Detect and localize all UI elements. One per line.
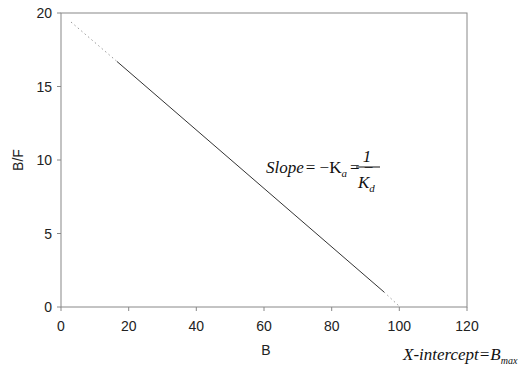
x-tick-0: 0 <box>57 318 65 334</box>
slope-numerator: 1 <box>363 147 372 166</box>
dotted-extrapolation-upper <box>71 22 117 62</box>
x-intercept-annotation: X-intercept=Bmax <box>402 345 518 366</box>
y-tick-0: 0 <box>44 299 52 315</box>
y-axis <box>57 13 61 307</box>
x-tick-40: 40 <box>189 318 205 334</box>
x-tick-60: 60 <box>256 318 272 334</box>
y-tick-15: 15 <box>36 79 52 95</box>
x-tick-labels: 0 20 40 60 80 100 120 <box>57 318 479 334</box>
y-tick-5: 5 <box>44 226 52 242</box>
y-tick-labels: 0 5 10 15 20 <box>36 5 52 315</box>
x-tick-120: 120 <box>455 318 479 334</box>
y-tick-20: 20 <box>36 5 52 21</box>
x-tick-100: 100 <box>388 318 412 334</box>
x-axis <box>61 307 467 311</box>
y-axis-label: B/F <box>10 149 26 171</box>
y-tick-10: 10 <box>36 152 52 168</box>
dotted-extrapolation-lower <box>384 292 399 306</box>
x-tick-80: 80 <box>324 318 340 334</box>
plot-area <box>61 13 467 307</box>
scatchard-chart: 0 5 10 15 20 0 20 40 60 80 100 120 B B/F… <box>0 0 518 372</box>
x-axis-label: B <box>261 342 270 358</box>
svg-text:X-intercept=Bmax: X-intercept=Bmax <box>402 345 518 366</box>
x-tick-20: 20 <box>121 318 137 334</box>
slope-annotation: Slope= −Ka= − 1 Kd <box>266 147 380 194</box>
